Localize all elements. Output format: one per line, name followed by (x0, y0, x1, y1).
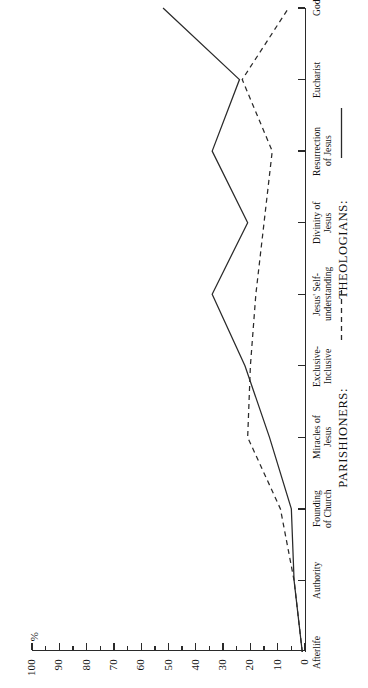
chart-figure: % 1009080706050403020100 AfterlifeAuthor… (0, 0, 368, 688)
legend-lines (0, 0, 368, 688)
